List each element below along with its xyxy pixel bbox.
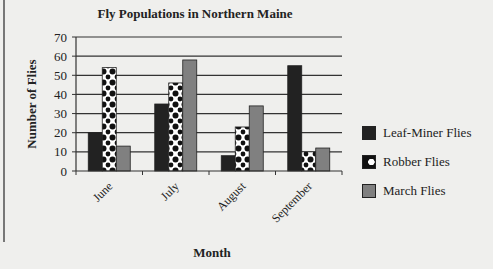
legend-swatch-march bbox=[362, 184, 376, 198]
bars bbox=[88, 60, 330, 171]
legend-swatch-leaf-miner bbox=[362, 126, 376, 140]
bar bbox=[88, 133, 102, 171]
bar bbox=[302, 152, 316, 171]
y-tick-label: 0 bbox=[61, 164, 68, 179]
bar bbox=[235, 127, 249, 171]
legend-label: March Flies bbox=[383, 183, 445, 199]
legend-label: Leaf-Miner Flies bbox=[383, 125, 471, 141]
legend-item-march: March Flies bbox=[362, 176, 471, 205]
legend: Leaf-Miner Flies Robber Flies March Flie… bbox=[362, 118, 471, 205]
bar bbox=[316, 148, 330, 171]
legend-item-leaf-miner: Leaf-Miner Flies bbox=[362, 118, 471, 147]
y-tick-label: 10 bbox=[54, 144, 67, 159]
x-axis-label: Month bbox=[193, 245, 231, 260]
bar bbox=[288, 66, 302, 171]
y-axis-label: Number of Flies bbox=[24, 59, 39, 148]
y-tick-label: 40 bbox=[54, 87, 67, 102]
legend-swatch-robber bbox=[362, 155, 376, 169]
y-tick-label: 30 bbox=[54, 106, 67, 121]
x-tick-label: August bbox=[214, 179, 249, 214]
y-tick-label: 70 bbox=[54, 30, 67, 45]
x-tick-label: September bbox=[269, 179, 315, 225]
bar bbox=[221, 156, 235, 171]
legend-item-robber: Robber Flies bbox=[362, 147, 471, 176]
bar bbox=[183, 60, 197, 171]
y-tick-label: 50 bbox=[54, 68, 67, 83]
y-tick-label: 20 bbox=[54, 125, 67, 140]
bar bbox=[102, 68, 116, 171]
bar bbox=[116, 146, 130, 171]
legend-label: Robber Flies bbox=[383, 154, 450, 170]
y-tick-label: 60 bbox=[54, 49, 67, 64]
x-tick-label: July bbox=[158, 179, 182, 203]
bar bbox=[249, 106, 263, 171]
bar bbox=[169, 83, 183, 171]
x-tick-label: June bbox=[90, 179, 115, 204]
bar bbox=[155, 104, 169, 171]
